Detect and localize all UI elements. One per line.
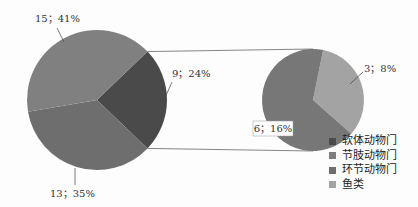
legend-label: 鱼类 xyxy=(342,178,364,193)
legend-label: 软体动物门 xyxy=(342,134,397,149)
legend-swatch xyxy=(329,167,336,174)
legend-label: 节肢动物门 xyxy=(342,149,397,164)
main-pie xyxy=(27,30,167,170)
legend-swatch xyxy=(329,138,336,145)
connector-line-bottom xyxy=(148,148,313,151)
data-label: 9；24% xyxy=(172,68,211,79)
legend-item: 鱼类 xyxy=(329,178,397,193)
legend-item: 环节动物门 xyxy=(329,163,397,178)
data-label: 3；8% xyxy=(364,63,396,74)
data-label: 13；35% xyxy=(50,188,95,199)
leader-line xyxy=(57,28,64,42)
legend-item: 节肢动物门 xyxy=(329,149,397,164)
data-label: 6；16% xyxy=(254,123,293,134)
legend-swatch xyxy=(329,181,336,188)
legend-label: 环节动物门 xyxy=(342,163,397,178)
connector-line-top xyxy=(148,49,313,52)
legend: 软体动物门 节肢动物门 环节动物门 鱼类 xyxy=(329,134,397,192)
legend-swatch xyxy=(329,152,336,159)
data-label: 15；41% xyxy=(35,13,80,24)
legend-item: 软体动物门 xyxy=(329,134,397,149)
